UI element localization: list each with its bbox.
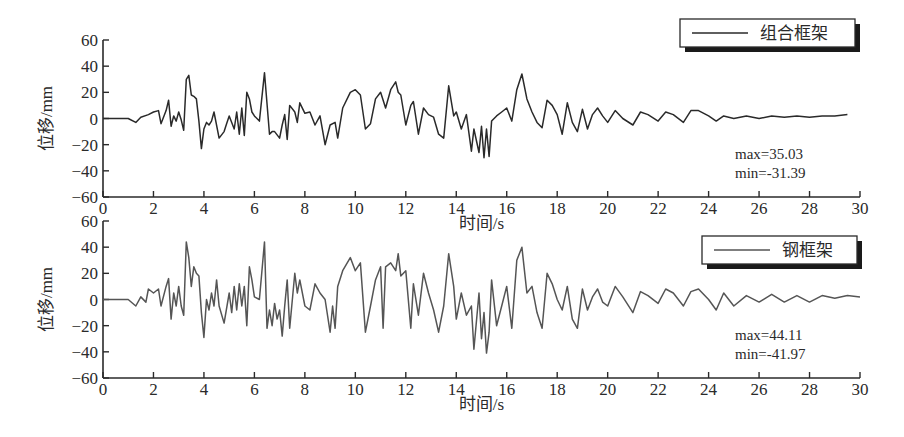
x-tick-label: 8 — [301, 199, 310, 218]
y-tick-label: −40 — [71, 343, 98, 362]
y-tick-label: 0 — [90, 110, 99, 129]
x-tick-label: 0 — [99, 380, 108, 399]
x-tick-label: 22 — [650, 199, 667, 218]
chart-panel-2: 6040200−20−40−60024681012141618202224262… — [37, 212, 869, 414]
y-tick-label: 40 — [81, 57, 98, 76]
x-tick-label: 22 — [650, 380, 667, 399]
x-tick-label: 2 — [149, 380, 158, 399]
x-tick-label: 0 — [99, 199, 108, 218]
x-tick-label: 30 — [852, 380, 869, 399]
chart-panel-1: 6040200−20−40−60024681012141618202224262… — [37, 19, 869, 233]
stat-annotation: max=44.11 — [735, 327, 802, 343]
y-tick-label: −40 — [71, 162, 98, 181]
y-tick-label: 40 — [81, 238, 98, 257]
y-tick-label: 60 — [81, 212, 98, 231]
legend-label: 组合框架 — [760, 24, 828, 43]
y-tick-label: −20 — [71, 317, 98, 336]
x-tick-label: 12 — [397, 199, 414, 218]
x-tick-label: 8 — [301, 380, 310, 399]
stat-annotation: min=-31.39 — [735, 165, 806, 181]
x-axis-label: 时间/s — [459, 214, 504, 233]
y-tick-label: 20 — [81, 264, 98, 283]
x-tick-label: 30 — [852, 199, 869, 218]
x-tick-label: 18 — [549, 199, 566, 218]
y-tick-label: −20 — [71, 136, 98, 155]
legend: 钢框架 — [702, 236, 862, 269]
stat-annotation: max=35.03 — [735, 146, 803, 162]
x-tick-label: 10 — [347, 380, 364, 399]
y-tick-label: 0 — [90, 291, 99, 310]
x-tick-label: 24 — [700, 380, 718, 399]
x-tick-label: 4 — [200, 199, 209, 218]
x-tick-label: 28 — [801, 199, 818, 218]
legend-label: 钢框架 — [782, 241, 833, 260]
y-axis-label: 位移/mm — [37, 267, 56, 332]
y-tick-label: 60 — [81, 31, 98, 50]
x-tick-label: 20 — [599, 199, 616, 218]
figure: 6040200−20−40−60024681012141618202224262… — [0, 0, 904, 437]
y-axis-label: 位移/mm — [37, 86, 56, 151]
x-tick-label: 18 — [549, 380, 566, 399]
x-tick-label: 2 — [149, 199, 158, 218]
x-tick-label: 6 — [250, 380, 259, 399]
stat-annotation: min=-41.97 — [735, 346, 806, 362]
x-axis-label: 时间/s — [459, 395, 504, 414]
x-tick-label: 10 — [347, 199, 364, 218]
y-tick-label: −60 — [71, 188, 98, 207]
x-tick-label: 28 — [801, 380, 818, 399]
x-tick-label: 6 — [250, 199, 259, 218]
x-tick-label: 20 — [599, 380, 616, 399]
x-tick-label: 26 — [751, 380, 768, 399]
x-tick-label: 26 — [751, 199, 768, 218]
x-tick-label: 24 — [700, 199, 718, 218]
x-tick-label: 12 — [397, 380, 414, 399]
x-tick-label: 4 — [200, 380, 209, 399]
legend: 组合框架 — [680, 19, 860, 52]
y-tick-label: −60 — [71, 369, 98, 388]
y-tick-label: 20 — [81, 83, 98, 102]
